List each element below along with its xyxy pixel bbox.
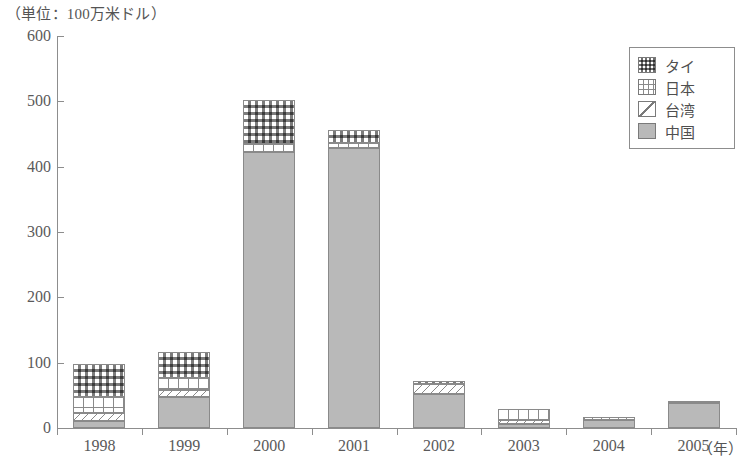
x-axis-tick-label: 1999	[141, 437, 227, 455]
chart-unit-caption: （単位：100万米ドル）	[6, 2, 166, 23]
y-axis-tick	[57, 297, 64, 298]
x-axis-tick	[312, 428, 313, 435]
bar-segment-china	[583, 420, 635, 428]
legend-swatch-japan-icon	[638, 79, 656, 95]
chart-legend: タイ日本台湾中国	[629, 47, 735, 149]
y-axis-tick	[57, 428, 64, 429]
x-axis-tick	[227, 428, 228, 435]
y-axis-tick	[57, 167, 64, 168]
legend-swatch-china-icon	[638, 123, 656, 139]
y-axis-tick-label: 600	[3, 27, 51, 45]
x-axis-tick-label: 2002	[396, 437, 482, 455]
x-axis-tick-label: 1998	[56, 437, 142, 455]
legend-label: 中国	[665, 121, 695, 142]
bar-segment-china	[668, 403, 720, 428]
bar-segment-thailand	[413, 381, 465, 384]
bar-group	[413, 36, 465, 428]
legend-label: 台湾	[665, 99, 695, 120]
legend-item-japan: 日本	[638, 76, 728, 98]
legend-swatch-taiwan-icon	[638, 101, 656, 117]
x-axis-tick-label: 2001	[311, 437, 397, 455]
legend-item-china: 中国	[638, 120, 728, 142]
y-axis-tick	[57, 101, 64, 102]
bar-segment-japan	[498, 409, 550, 420]
bar-segment-china	[413, 394, 465, 428]
footnote-text	[0, 456, 752, 465]
bar-group	[583, 36, 635, 428]
x-axis-tick	[651, 428, 652, 435]
x-axis-tick	[57, 428, 58, 435]
bar-group	[73, 36, 125, 428]
bar-segment-taiwan	[583, 417, 635, 420]
bar-segment-taiwan	[413, 384, 465, 394]
bar-segment-thailand	[158, 352, 210, 377]
bar-segment-japan	[243, 144, 295, 151]
y-axis-tick-label: 400	[3, 158, 51, 176]
bar-segment-china	[328, 148, 380, 428]
bar-segment-thailand	[328, 130, 380, 143]
bar-chart: （単位：100万米ドル） 0100200300400500600 1998199…	[0, 0, 752, 465]
x-axis-tick	[736, 428, 737, 435]
bar-group	[328, 36, 380, 428]
legend-item-thailand: タイ	[638, 54, 728, 76]
legend-label: 日本	[665, 77, 695, 98]
bar-segment-china	[158, 397, 210, 428]
x-axis-tick-label: 2003	[481, 437, 567, 455]
y-axis-tick	[57, 363, 64, 364]
bar-segment-china	[498, 424, 550, 428]
y-axis-tick-label: 300	[3, 223, 51, 241]
y-axis-tick-label: 0	[3, 419, 51, 437]
y-axis-tick	[57, 232, 64, 233]
x-axis-unit-label: （年）	[698, 437, 743, 458]
y-axis-tick	[57, 36, 64, 37]
x-axis-tick-label: 2000	[226, 437, 312, 455]
bar-group	[498, 36, 550, 428]
bar-segment-china	[73, 421, 125, 428]
bar-segment-japan	[328, 143, 380, 148]
bar-segment-china	[243, 152, 295, 428]
bar-segment-japan	[73, 397, 125, 413]
y-axis-tick-label: 500	[3, 92, 51, 110]
bar-segment-taiwan	[498, 420, 550, 424]
bar-segment-taiwan	[668, 401, 720, 403]
x-axis-tick-label: 2004	[566, 437, 652, 455]
legend-label: タイ	[665, 55, 695, 76]
y-axis-tick-label: 200	[3, 288, 51, 306]
legend-item-taiwan: 台湾	[638, 98, 728, 120]
legend-swatch-thailand-icon	[638, 57, 656, 73]
bar-group	[158, 36, 210, 428]
y-axis-tick-label: 100	[3, 354, 51, 372]
bar-segment-taiwan	[73, 413, 125, 421]
x-axis-tick	[142, 428, 143, 435]
x-axis-tick	[481, 428, 482, 435]
bar-segment-japan	[158, 378, 210, 390]
x-axis-tick	[397, 428, 398, 435]
bar-segment-thailand	[73, 364, 125, 397]
bar-group	[243, 36, 295, 428]
x-axis-tick	[566, 428, 567, 435]
bar-segment-taiwan	[158, 390, 210, 397]
bar-segment-thailand	[243, 100, 295, 144]
